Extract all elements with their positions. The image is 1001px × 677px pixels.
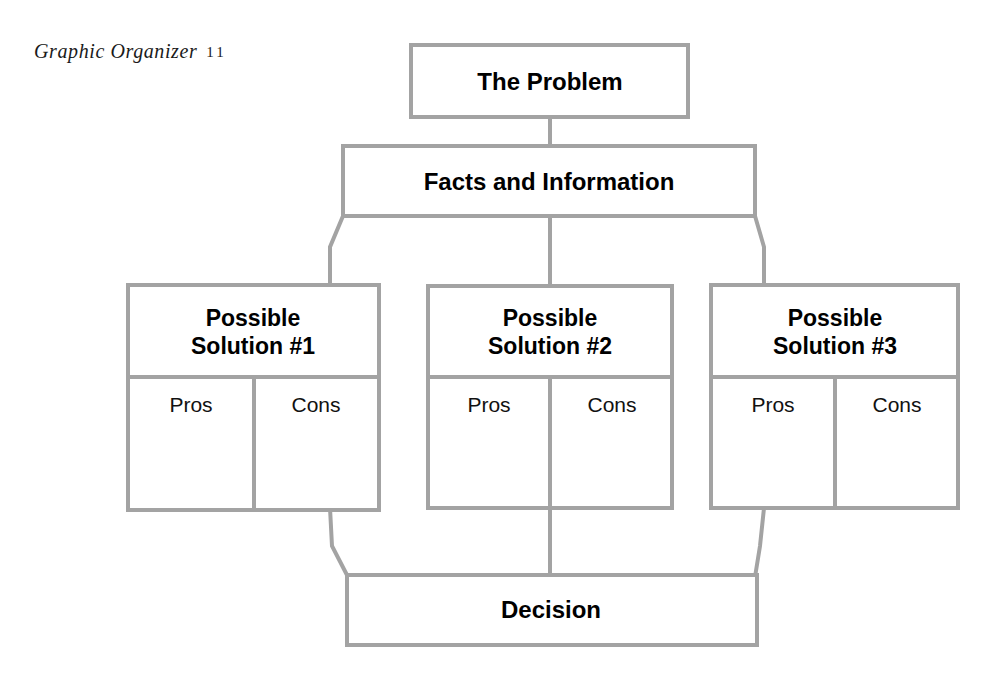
connector-facts-to-solution-3 <box>755 216 764 287</box>
connector-solution-1-to-decision <box>330 508 348 577</box>
problem-box-label: The Problem <box>477 68 622 95</box>
problem-solving-flowchart: The Problem Facts and Information Possib… <box>0 0 1001 677</box>
facts-box-label: Facts and Information <box>424 168 675 195</box>
solution-box-3-cons-label: Cons <box>872 393 921 416</box>
solution-box-2-label-line1: Possible <box>503 305 598 331</box>
facts-box: Facts and Information <box>343 146 755 216</box>
solution-box-1-label-line1: Possible <box>206 305 301 331</box>
decision-box-label: Decision <box>501 596 601 623</box>
solution-box-1-pros-label: Pros <box>169 393 212 416</box>
decision-box: Decision <box>347 575 757 645</box>
solution-box-3-pros-label: Pros <box>751 393 794 416</box>
solution-box-2-pros-label: Pros <box>467 393 510 416</box>
solution-box-3-label-line2: Solution #3 <box>773 333 897 359</box>
solution-box-3-label-line1: Possible <box>788 305 883 331</box>
solution-box-2: Possible Solution #2 Pros Cons <box>428 286 672 508</box>
connector-facts-to-solution-1 <box>330 216 343 287</box>
solution-box-2-label-line2: Solution #2 <box>488 333 612 359</box>
solution-box-1: Possible Solution #1 Pros Cons <box>128 285 379 510</box>
solution-box-2-cons-label: Cons <box>587 393 636 416</box>
connector-solution-3-to-decision <box>755 508 764 577</box>
solution-box-1-label-line2: Solution #1 <box>191 333 315 359</box>
solution-box-1-cons-label: Cons <box>291 393 340 416</box>
solution-box-3: Possible Solution #3 Pros Cons <box>711 285 958 508</box>
problem-box: The Problem <box>411 45 688 117</box>
worksheet-page: Graphic Organizer11 The Problem Facts an… <box>0 0 1001 677</box>
